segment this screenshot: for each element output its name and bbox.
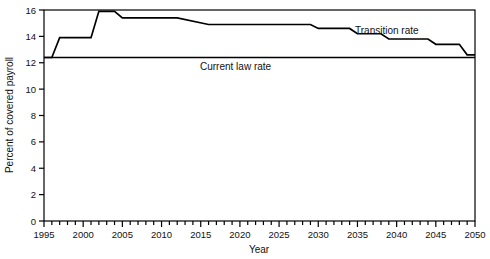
y-tick-label: 2 xyxy=(31,189,36,200)
chart-figure: 0246810121416 19952000200520102015202020… xyxy=(0,0,490,259)
y-tick-label: 8 xyxy=(31,110,36,121)
x-tick-label: 1995 xyxy=(33,229,54,240)
x-tick-label: 2035 xyxy=(347,229,368,240)
x-tick-label: 2025 xyxy=(269,229,290,240)
x-tick-label: 2040 xyxy=(386,229,407,240)
y-tick-label: 6 xyxy=(31,136,36,147)
y-tick-label: 16 xyxy=(25,5,36,16)
y-tick-label: 10 xyxy=(25,84,36,95)
x-axis-tick-labels: 1995200020052010201520202025203020352040… xyxy=(33,229,485,240)
x-tick-label: 2005 xyxy=(112,229,133,240)
x-axis-major-ticks xyxy=(44,221,475,227)
chart-svg: 0246810121416 19952000200520102015202020… xyxy=(0,0,490,259)
x-tick-label: 2000 xyxy=(73,229,94,240)
plot-border xyxy=(44,10,475,221)
x-tick-label: 2050 xyxy=(464,229,485,240)
current-law-rate-label: Current law rate xyxy=(200,61,272,72)
y-tick-label: 4 xyxy=(31,163,36,174)
x-tick-label: 2045 xyxy=(425,229,446,240)
y-tick-label: 12 xyxy=(25,57,36,68)
y-tick-label: 0 xyxy=(31,216,36,227)
y-axis-title: Percent of covered payroll xyxy=(4,57,15,173)
y-tick-label: 14 xyxy=(25,31,36,42)
x-tick-label: 2020 xyxy=(229,229,250,240)
transition-rate-label: Transition rate xyxy=(355,25,419,36)
y-axis-tick-labels: 0246810121416 xyxy=(25,5,36,227)
plot-frame xyxy=(44,10,475,221)
y-axis-ticks xyxy=(39,10,44,221)
x-tick-label: 2010 xyxy=(151,229,172,240)
x-axis-title: Year xyxy=(249,244,270,255)
x-axis-minor-ticks xyxy=(52,221,467,225)
x-tick-label: 2030 xyxy=(308,229,329,240)
x-tick-label: 2015 xyxy=(190,229,211,240)
